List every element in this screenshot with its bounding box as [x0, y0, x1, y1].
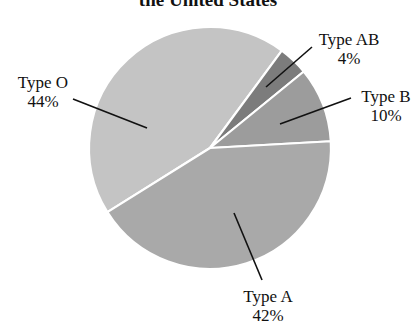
label-type-ab-pct: 4% [338, 49, 361, 68]
label-type-ab-name: Type AB [319, 30, 380, 49]
label-type-a-pct: 42% [252, 306, 283, 324]
pie-slices [89, 27, 331, 269]
label-type-b-name: Type B [361, 87, 410, 106]
chart-title: the United States [139, 0, 277, 10]
label-type-o-pct: 44% [27, 92, 58, 111]
label-type-b-pct: 10% [370, 106, 401, 125]
label-type-a-name: Type A [243, 287, 293, 306]
label-type-o-name: Type O [18, 73, 68, 92]
pie-chart: the United States Type O 44% Type AB 4% … [0, 0, 419, 324]
